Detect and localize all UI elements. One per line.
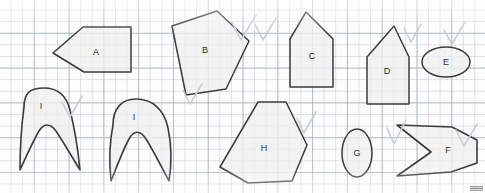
shape-i-1-label: I [40,101,43,111]
check-g-icon [387,120,406,144]
shapes-layer [0,0,485,193]
shape-c-label: C [309,51,316,61]
shape-b-label: B [202,45,208,55]
shape-h-label: H [261,143,268,153]
shape-d [367,26,409,104]
shape-g-label: G [353,148,360,158]
shape-b [172,11,249,95]
shape-i-1 [20,88,80,170]
shape-c [290,12,333,87]
shape-i-2-label: I [133,112,136,122]
shape-d-label: D [384,66,391,76]
shape-a-label: A [93,47,99,57]
check-c-icon [255,18,276,40]
worksheet-canvas: ABCDEFGHII [0,0,485,193]
check-d-icon [404,24,421,42]
shape-f-label: F [445,145,451,155]
check-e-icon [444,22,465,44]
corner-watermark [470,186,483,191]
shape-f [397,125,477,176]
shape-i-2 [110,99,171,181]
shape-e-label: E [443,57,449,67]
